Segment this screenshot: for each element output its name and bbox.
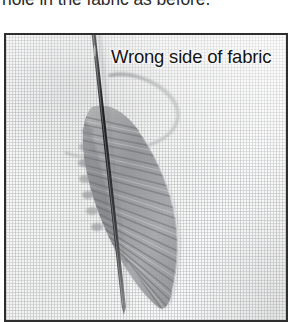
photo-annotation-label: Wrong side of fabric (111, 46, 271, 68)
body-text-clipped: hole in the fabric as before. (0, 0, 296, 16)
embroidery-photo: Wrong side of fabric (4, 33, 288, 322)
body-text-line: hole in the fabric as before. (2, 0, 296, 9)
embroidery-artwork (6, 35, 286, 320)
photo-inner: Wrong side of fabric (6, 35, 286, 320)
page-root: hole in the fabric as before. (0, 0, 296, 322)
